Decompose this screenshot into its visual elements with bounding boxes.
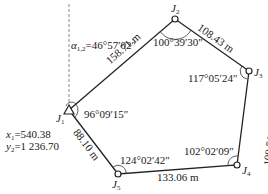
station-j5-circle	[115, 171, 121, 177]
station-j3-circle	[246, 68, 252, 74]
station-label-j4: J4	[242, 165, 250, 178]
distance-j4-j5: 133.06 m	[157, 172, 199, 183]
station-j2-circle	[172, 16, 178, 22]
angle-j2: 100°39′30″	[153, 37, 203, 48]
angle-j4: 102°02′09″	[184, 146, 234, 157]
angle-j5: 124°02′42″	[120, 155, 170, 166]
angle-j1: 96°09′15″	[84, 109, 128, 120]
station-label-j2: J2	[171, 3, 179, 16]
azimuth-label: α1,2=46°57′02″	[71, 40, 136, 53]
angle-arc-j1	[74, 104, 78, 118]
coordinate-y: y2=1 236.70	[6, 141, 59, 154]
station-label-j3: J3	[254, 67, 262, 80]
traverse-diagram: J1 J2 J3 J4 J5 96°09′15″ 100°39′30″ 117°…	[0, 0, 268, 194]
angle-j3: 117°05′24″	[188, 73, 237, 84]
station-label-j1: J1	[56, 113, 64, 126]
station-j4-circle	[234, 162, 240, 168]
station-label-j5: J5	[112, 179, 120, 192]
